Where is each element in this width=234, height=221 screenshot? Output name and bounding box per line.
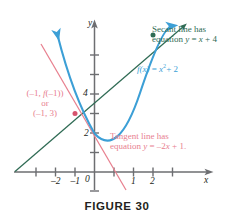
tangent-annotation-line1: Tangent line has: [110, 131, 186, 141]
function-label-tail: + 2: [166, 64, 178, 74]
point-annotation-or: or: [8, 98, 82, 108]
secant-annotation: Secant line has equation y = x + 4: [152, 24, 217, 44]
point-label-close: (–1)): [46, 88, 64, 98]
point-annotation-line1: (–1, f(–1)): [8, 88, 82, 98]
function-label-arg: (x): [140, 64, 150, 74]
x-tick-label-neg2: –2: [51, 176, 61, 187]
secant-annotation-line2: equation y = x + 4: [152, 34, 217, 44]
function-label-equals: =: [150, 64, 160, 74]
point-annotation-coords: (–1, 3): [8, 108, 82, 118]
x-tick-label-2: 2: [150, 176, 155, 187]
x-tick-label-1: 1: [131, 176, 136, 187]
x-tick-label-zero: 0: [85, 174, 90, 185]
tangent-annotation-line2: equation y = –2x + 1.: [110, 141, 186, 151]
point-annotation: (–1, f(–1)) or (–1, 3): [8, 88, 82, 118]
figure-caption: FIGURE 30: [0, 200, 234, 212]
function-label: f(x) = x2+ 2: [137, 64, 178, 74]
secant-eq-mid: =: [189, 34, 199, 44]
y-axis-label: y: [88, 18, 92, 29]
secant-eq-tail: + 4: [203, 34, 217, 44]
x-axis: [14, 168, 209, 177]
figure-container: –2 –1 0 1 2 2 4 x y Secant line has equa…: [0, 0, 234, 221]
point-label-open: (–1,: [26, 88, 43, 98]
tangent-eq-mid: = –2: [147, 141, 166, 151]
y-tick-label-2: 2: [84, 128, 89, 139]
x-axis-label: x: [204, 175, 208, 186]
y-tick-label-4: 4: [83, 88, 88, 99]
secant-annotation-line1: Secant line has: [152, 24, 217, 34]
tangent-eq-prefix: equation: [110, 141, 143, 151]
tangent-annotation: Tangent line has equation y = –2x + 1.: [110, 131, 186, 151]
tangent-eq-tail: + 1.: [170, 141, 186, 151]
y-axis: [90, 24, 99, 191]
x-tick-label-neg1: –1: [71, 176, 81, 187]
secant-eq-prefix: equation: [152, 34, 185, 44]
